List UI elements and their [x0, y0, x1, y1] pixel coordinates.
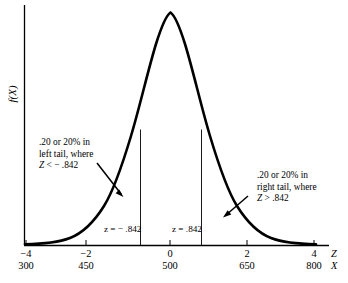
z-tick-label-0: −4 [0, 248, 56, 260]
annotation-left-line3: Z < − .842 [39, 160, 93, 172]
normal-distribution-figure: f(X) .20 or 20% in left tail, where Z < … [0, 0, 348, 283]
z-axis-name: Z [331, 248, 337, 259]
z-tick-label-3: 2 [217, 248, 277, 260]
axis-tick-group-2: 0 500 [140, 248, 200, 272]
x-axis-name: X [331, 260, 337, 271]
annotation-left-tail: .20 or 20% in left tail, where Z < − .84… [39, 137, 93, 172]
annotation-left-line1: .20 or 20% in [39, 137, 93, 149]
z-marker-label-left: z = − .842 [104, 224, 141, 234]
z-marker-label-right: z = .842 [172, 224, 202, 234]
annotation-right-condition: > .842 [262, 193, 288, 203]
x-tick-label-3: 650 [217, 260, 277, 272]
normal-curve [25, 13, 316, 245]
z-tick-label-1: −2 [56, 248, 116, 260]
x-tick-label-0: 300 [0, 260, 56, 272]
annotation-left-condition: < − .842 [44, 160, 78, 170]
right-annotation-arrow [223, 196, 248, 218]
annotation-right-line3: Z > .842 [257, 193, 317, 205]
z-tick-label-2: 0 [140, 248, 200, 260]
annotation-right-line2: right tail, where [257, 182, 317, 194]
annotation-right-tail: .20 or 20% in right tail, where Z > .842 [257, 170, 317, 205]
axis-tick-group-1: −2 450 [56, 248, 116, 272]
x-tick-label-2: 500 [140, 260, 200, 272]
x-tick-label-1: 450 [56, 260, 116, 272]
annotation-right-line1: .20 or 20% in [257, 170, 317, 182]
annotation-left-line2: left tail, where [39, 149, 93, 161]
axis-tick-group-3: 2 650 [217, 248, 277, 272]
x-axis-ticks [26, 240, 314, 245]
y-axis-label: f(X) [6, 74, 18, 114]
axis-tick-group-0: −4 300 [0, 248, 56, 272]
